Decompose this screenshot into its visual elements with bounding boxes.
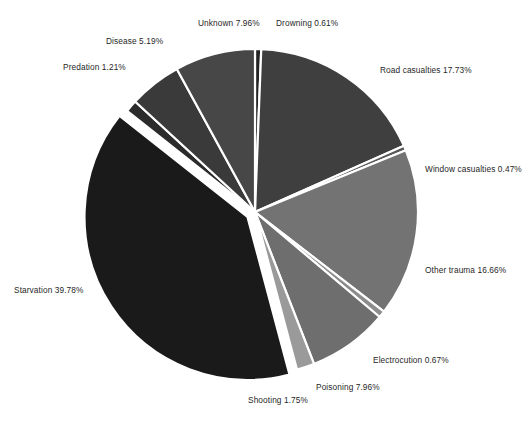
pie-label-disease: Disease 5.19% xyxy=(106,36,163,46)
pie-label-poisoning: Poisoning 7.96% xyxy=(316,382,380,392)
pie-label-electrocution: Electrocution 0.67% xyxy=(373,355,449,365)
pie-label-drowning: Drowning 0.61% xyxy=(276,18,338,28)
pie-label-other-trauma: Other trauma 16.66% xyxy=(425,265,506,275)
pie-label-shooting: Shooting 1.75% xyxy=(248,395,308,405)
pie-label-starvation: Starvation 39.78% xyxy=(14,285,84,295)
pie-slices-group xyxy=(84,49,418,380)
pie-label-window-casualties: Window casualties 0.47% xyxy=(425,164,522,174)
pie-label-unknown: Unknown 7.96% xyxy=(198,18,260,28)
pie-label-road-casualties: Road casualties 17.73% xyxy=(380,65,472,75)
pie-chart-figure: Predation 1.21% Disease 5.19% Unknown 7.… xyxy=(0,0,526,423)
pie-label-predation: Predation 1.21% xyxy=(63,62,126,72)
